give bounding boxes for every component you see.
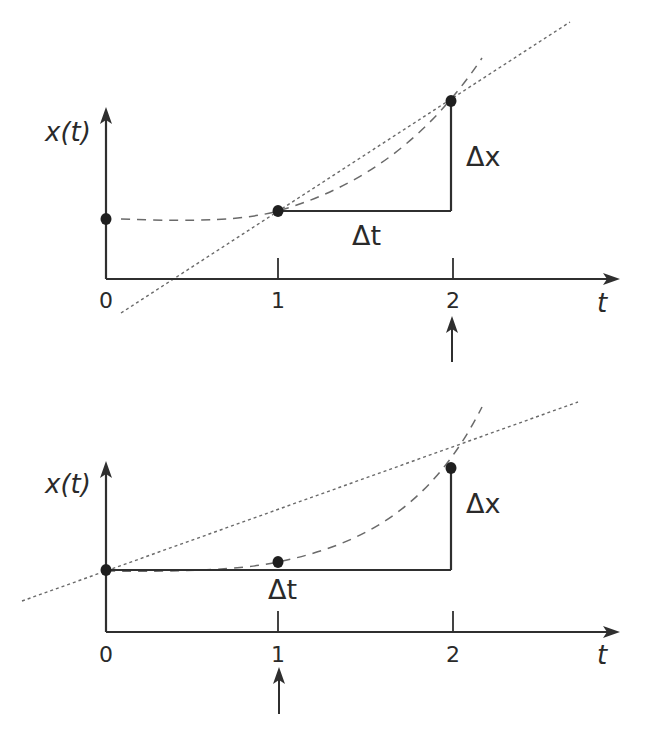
x-axis-label: t — [597, 288, 608, 318]
tick-label-2: 2 — [446, 642, 460, 667]
delta-x-label: Δx — [466, 488, 500, 519]
y-axis-label: x(t) — [44, 117, 91, 147]
secant-panel-bottom: x(t)t012ΔtΔx — [22, 402, 620, 714]
data-point-t2 — [446, 95, 457, 107]
delta-t-label: Δt — [352, 220, 381, 251]
tick-label-2: 2 — [446, 288, 460, 313]
data-point-t1 — [273, 556, 284, 568]
data-point-t1 — [273, 205, 284, 217]
position-curve — [121, 58, 482, 220]
secant-panel-top: x(t)t012ΔtΔx — [44, 22, 620, 362]
tick-label-1: 1 — [271, 288, 285, 313]
data-point-t0 — [101, 564, 112, 576]
average-velocity-diagram: x(t)t012ΔtΔxx(t)t012ΔtΔx — [0, 0, 649, 742]
y-axis-label: x(t) — [44, 469, 91, 499]
data-point-t2 — [446, 462, 457, 474]
delta-x-label: Δx — [466, 141, 500, 172]
tick-label-1: 1 — [271, 642, 285, 667]
data-point-t0 — [101, 213, 112, 225]
secant-line — [121, 22, 570, 313]
position-curve — [106, 407, 482, 571]
x-axis-label: t — [597, 640, 608, 670]
tick-label-0: 0 — [99, 288, 113, 313]
delta-t-label: Δt — [268, 574, 297, 605]
tick-label-0: 0 — [99, 642, 113, 667]
